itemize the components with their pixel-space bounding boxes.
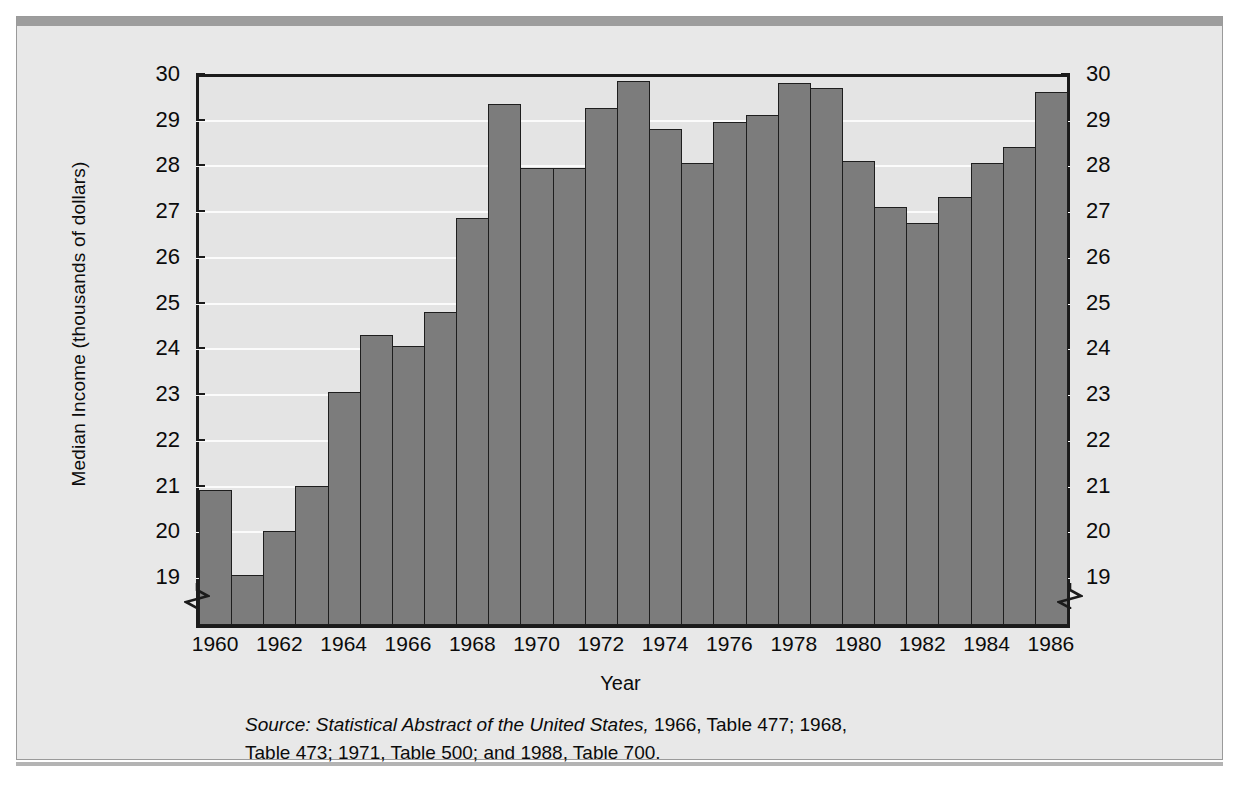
y-tick-label-left: 25 — [118, 292, 180, 314]
bar-chart: Median Income (thousands of dollars) 191… — [17, 17, 1224, 761]
x-tick-label: 1982 — [887, 633, 957, 654]
y-tick-label-right: 24 — [1086, 337, 1148, 359]
bar — [520, 168, 553, 625]
axis-break-right-icon — [1057, 583, 1083, 609]
bar-series — [199, 74, 1067, 625]
y-tick-label-left: 27 — [118, 200, 180, 222]
bar — [295, 486, 328, 625]
y-tick-label-left: 24 — [118, 337, 180, 359]
bar — [1035, 92, 1068, 625]
y-tick-label-right: 25 — [1086, 292, 1148, 314]
y-tick-label-right: 22 — [1086, 429, 1148, 451]
y-tick-label-right: 19 — [1086, 566, 1148, 588]
bar — [328, 392, 361, 625]
x-tick-label: 1970 — [502, 633, 572, 654]
y-tick-label-left: 28 — [118, 154, 180, 176]
source-line1-rest: 1966, Table 477; 1968, — [649, 714, 847, 735]
y-tick-label-right: 23 — [1086, 383, 1148, 405]
bar — [424, 312, 457, 625]
bar — [746, 115, 779, 625]
y-tick-label-right: 28 — [1086, 154, 1148, 176]
bar — [649, 129, 682, 625]
x-tick-label: 1960 — [180, 633, 250, 654]
bar — [456, 218, 489, 625]
x-tick-label: 1964 — [309, 633, 379, 654]
x-tick-label: 1974 — [630, 633, 700, 654]
bar — [617, 81, 650, 625]
y-tick-label-left: 29 — [118, 109, 180, 131]
bar — [231, 575, 264, 625]
x-tick-label: 1980 — [823, 633, 893, 654]
bar — [360, 335, 393, 625]
y-tick-label-right: 20 — [1086, 520, 1148, 542]
bar — [1003, 147, 1036, 625]
bar — [971, 163, 1004, 625]
axis-break-left-icon — [184, 583, 210, 609]
y-tick-label-left: 19 — [118, 566, 180, 588]
bar — [810, 88, 843, 625]
bar — [553, 168, 586, 625]
figure-panel: Median Income (thousands of dollars) 191… — [16, 16, 1223, 760]
x-axis-title: Year — [17, 672, 1224, 695]
y-tick-label-left: 23 — [118, 383, 180, 405]
x-tick-label: 1962 — [244, 633, 314, 654]
bar — [263, 531, 296, 625]
x-tick-label: 1966 — [373, 633, 443, 654]
y-axis-title: Median Income (thousands of dollars) — [68, 114, 90, 534]
y-tick-label-left: 30 — [118, 63, 180, 85]
x-tick-label: 1972 — [566, 633, 636, 654]
y-tick-label-right: 21 — [1086, 475, 1148, 497]
bar — [778, 83, 811, 625]
bar — [842, 161, 875, 625]
bar — [488, 104, 521, 625]
x-tick-label: 1978 — [759, 633, 829, 654]
y-tick-label-right: 30 — [1086, 63, 1148, 85]
source-line2: Table 473; 1971, Table 500; and 1988, Ta… — [245, 742, 661, 763]
bar — [681, 163, 714, 625]
bar — [392, 346, 425, 625]
y-tick-label-left: 26 — [118, 246, 180, 268]
y-tick-label-left: 22 — [118, 429, 180, 451]
bar — [938, 197, 971, 625]
bar — [713, 122, 746, 625]
source-note: Source: Statistical Abstract of the Unit… — [245, 711, 1005, 766]
x-axis-line — [196, 625, 1070, 628]
y-tick-label-left: 21 — [118, 475, 180, 497]
x-tick-label: 1986 — [1016, 633, 1086, 654]
bar — [906, 223, 939, 625]
x-tick-label: 1968 — [437, 633, 507, 654]
y-tick-label-right: 27 — [1086, 200, 1148, 222]
x-tick-label: 1976 — [694, 633, 764, 654]
bar — [874, 207, 907, 625]
y-tick-label-left: 20 — [118, 520, 180, 542]
y-tick-label-right: 29 — [1086, 109, 1148, 131]
bar — [585, 108, 618, 625]
x-tick-label: 1984 — [952, 633, 1022, 654]
y-tick-label-right: 26 — [1086, 246, 1148, 268]
source-title: Source: Statistical Abstract of the Unit… — [245, 714, 649, 735]
